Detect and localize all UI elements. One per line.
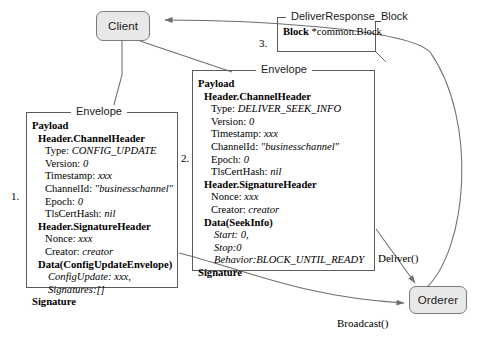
config-version-value: 0	[83, 158, 88, 169]
seek-channelid-value: "businesschannel"	[261, 141, 339, 152]
seek-tlscerthash: TlsCertHash: nil	[198, 166, 370, 179]
edge-label-broadcast: Broadcast()	[337, 317, 388, 329]
seek-data: Data(SeekInfo)	[198, 217, 370, 230]
node-client[interactable]: Client	[96, 11, 150, 41]
node-orderer[interactable]: Orderer	[409, 286, 467, 314]
config-nonce: Nonce: xxx	[32, 233, 173, 246]
seek-timestamp-value: xxx	[264, 128, 278, 139]
seek-tlscerthash-value: nil	[270, 166, 281, 177]
seek-creator: Creator: creator	[198, 204, 370, 217]
deliver-response-type: Block	[283, 26, 309, 37]
config-timestamp-label: Timestamp:	[45, 170, 98, 181]
config-signatures: Signatures:[]	[32, 284, 173, 297]
seek-epoch-value: 0	[244, 154, 249, 165]
config-signatureheader: Header.SignatureHeader	[32, 221, 173, 234]
diagram-canvas: Client Orderer DeliverResponse_Block Blo…	[0, 0, 484, 339]
config-creator-value: creator	[82, 246, 113, 257]
seek-signature: Signature	[198, 267, 370, 280]
seek-nonce-label: Nonce:	[211, 191, 244, 202]
config-creator: Creator: creator	[32, 246, 173, 259]
config-epoch-value: 0	[78, 196, 83, 207]
config-creator-label: Creator:	[45, 246, 82, 257]
config-timestamp: Timestamp: xxx	[32, 170, 173, 183]
config-signature: Signature	[32, 296, 173, 309]
config-nonce-value: xxx	[78, 233, 92, 244]
config-tlscerthash: TlsCertHash: nil	[32, 208, 173, 221]
edge-client-to-config-envelope	[112, 41, 122, 112]
config-type-value: CONFIG_UPDATE	[72, 145, 157, 156]
seek-start: Start: 0,	[198, 229, 370, 242]
config-tlscerthash-label: TlsCertHash:	[45, 208, 104, 219]
edge-client-to-seek-envelope	[140, 41, 232, 72]
config-payload: Payload	[32, 120, 173, 133]
seek-channelheader: Header.ChannelHeader	[198, 91, 370, 104]
config-data: Data(ConfigUpdateEnvelope)	[32, 259, 173, 272]
box-deliver-response-block: DeliverResponse_Block Block *common.Bloc…	[277, 17, 376, 52]
deliver-response-line: Block *common.Block	[283, 26, 371, 39]
seek-nonce-value: xxx	[244, 191, 258, 202]
config-version-label: Version:	[45, 158, 83, 169]
config-channelheader: Header.ChannelHeader	[32, 133, 173, 146]
seek-signatureheader: Header.SignatureHeader	[198, 179, 370, 192]
seek-tlscerthash-label: TlsCertHash:	[211, 166, 270, 177]
config-configupdate: ConfigUpdate: xxx,	[32, 271, 173, 284]
seek-epoch-label: Epoch:	[211, 154, 244, 165]
config-epoch-label: Epoch:	[45, 196, 78, 207]
seek-nonce: Nonce: xxx	[198, 191, 370, 204]
seek-type-value: DELIVER_SEEK_INFO	[238, 103, 342, 114]
seek-creator-value: creator	[248, 204, 279, 215]
step-number-3: 3.	[259, 37, 267, 49]
step-number-1: 1.	[11, 190, 19, 202]
config-type: Type: CONFIG_UPDATE	[32, 145, 173, 158]
box-seek-info-envelope: Envelope Payload Header.ChannelHeader Ty…	[192, 70, 375, 271]
config-epoch: Epoch: 0	[32, 196, 173, 209]
seek-timestamp-label: Timestamp:	[211, 128, 264, 139]
seek-epoch: Epoch: 0	[198, 154, 370, 167]
seek-behavior: Behavior:BLOCK_UNTIL_READY	[198, 254, 370, 267]
seek-type-label: Type:	[211, 103, 238, 114]
config-channelid-value: "businesschannel"	[95, 183, 173, 194]
edge-deliverresponse-leader	[376, 52, 386, 62]
seek-channelid: ChannelId: "businesschannel"	[198, 141, 370, 154]
config-timestamp-value: xxx	[98, 170, 112, 181]
config-version: Version: 0	[32, 158, 173, 171]
config-channelid-label: ChannelId:	[45, 183, 95, 194]
config-tlscerthash-value: nil	[104, 208, 115, 219]
seek-version: Version: 0	[198, 116, 370, 129]
seek-payload: Payload	[198, 78, 370, 91]
deliver-response-rest: *common.Block	[309, 26, 382, 37]
edge-label-deliver: Deliver()	[378, 252, 418, 264]
step-number-2: 2.	[181, 152, 189, 164]
seek-type: Type: DELIVER_SEEK_INFO	[198, 103, 370, 116]
seek-version-value: 0	[249, 116, 254, 127]
seek-stop: Stop:0	[198, 242, 370, 255]
node-orderer-label: Orderer	[418, 294, 458, 306]
config-type-label: Type:	[45, 145, 72, 156]
node-client-label: Client	[108, 20, 138, 32]
seek-creator-label: Creator:	[211, 204, 248, 215]
box-config-update-envelope: Envelope Payload Header.ChannelHeader Ty…	[26, 112, 178, 288]
seek-timestamp: Timestamp: xxx	[198, 128, 370, 141]
config-channelid: ChannelId: "businesschannel"	[32, 183, 173, 196]
seek-version-label: Version:	[211, 116, 249, 127]
config-nonce-label: Nonce:	[45, 233, 78, 244]
seek-channelid-label: ChannelId:	[211, 141, 261, 152]
